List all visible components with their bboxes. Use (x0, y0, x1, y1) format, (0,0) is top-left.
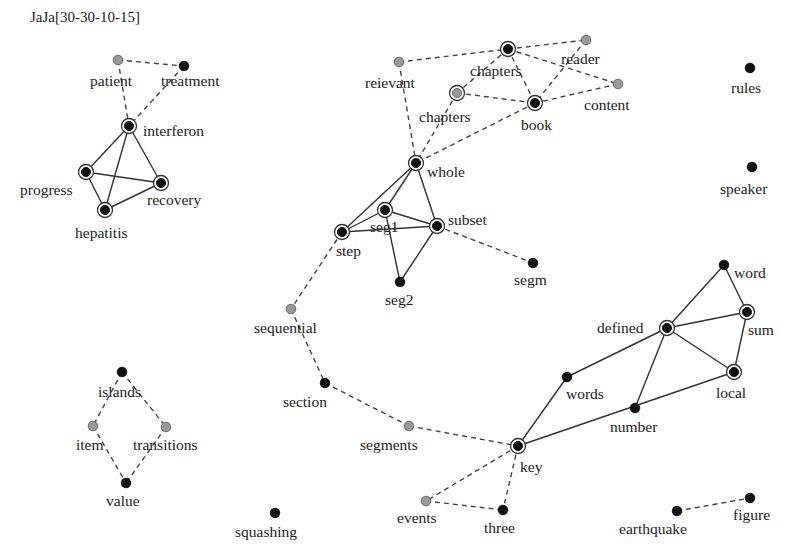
node-dot-icon (498, 505, 508, 515)
node-dot-icon (286, 304, 296, 314)
node-label-section: section (283, 393, 327, 410)
node-label-hepatitis: hepatitis (75, 224, 128, 241)
node-seg2 (395, 277, 405, 287)
edge-progress-recovery (86, 172, 161, 183)
node-label-events: events (397, 509, 437, 526)
node-content (613, 79, 623, 89)
node-book (528, 96, 543, 111)
node-dot-icon (432, 221, 441, 230)
node-whole (409, 156, 424, 171)
node-dot-icon (395, 277, 405, 287)
node-label-reader: reader (561, 50, 601, 67)
node-label-number: number (610, 418, 658, 435)
node-reader (581, 35, 591, 45)
node-label-item: item (76, 436, 104, 453)
node-dot-icon (719, 260, 729, 270)
node-chapters_top (501, 42, 516, 57)
node-patient (113, 55, 123, 65)
node-dot-icon (156, 178, 165, 187)
node-label-reievant: reievant (365, 74, 416, 91)
edge-section-segments (325, 383, 409, 426)
node-key (511, 439, 526, 454)
node-dot-icon (421, 496, 431, 506)
node-speaker (747, 162, 757, 172)
node-three (498, 505, 508, 515)
node-recovery (154, 176, 169, 191)
node-sum (740, 305, 755, 320)
node-label-defined: defined (597, 319, 644, 336)
node-label-speaker: speaker (720, 180, 768, 197)
edge-subset-seg2 (400, 226, 437, 282)
node-dot-icon (337, 227, 346, 236)
node-dot-icon (320, 378, 330, 388)
node-dot-icon (630, 403, 640, 413)
node-dot-icon (530, 98, 539, 107)
node-dot-icon (100, 205, 109, 214)
node-label-progress: progress (20, 181, 73, 198)
node-dot-icon (742, 307, 751, 316)
node-transitions (161, 422, 171, 432)
node-dot-icon (747, 162, 757, 172)
node-dot-icon (729, 367, 738, 376)
node-hepatitis (98, 203, 113, 218)
node-label-islands: islands (98, 383, 141, 400)
node-label-treatment: treatment (161, 72, 220, 89)
node-dot-icon (745, 493, 755, 503)
node-rules (745, 63, 755, 73)
node-item (88, 421, 98, 431)
edge-key-three (503, 446, 518, 510)
node-dot-icon (380, 205, 389, 214)
node-value (121, 478, 131, 488)
word-graph-canvas: patienttreatmentinterferonprogressrecove… (0, 0, 797, 557)
edge-step-sequential (291, 232, 342, 309)
node-dot-icon (528, 258, 538, 268)
node-label-interferon: interferon (143, 122, 204, 139)
node-dot-icon (270, 508, 280, 518)
node-dot-icon (81, 167, 90, 176)
node-label-squashing: squashing (235, 523, 297, 540)
edge-patient-interferon (118, 60, 129, 126)
node-label-key: key (520, 458, 543, 475)
node-earthquake (672, 506, 682, 516)
node-label-seg1: seg1 (370, 218, 398, 235)
edge-patient-treatment (118, 60, 184, 66)
node-reievant (394, 57, 404, 67)
edge-subset-segm (437, 226, 533, 263)
node-dot-icon (581, 35, 591, 45)
node-dot-icon (745, 63, 755, 73)
node-label-segm: segm (514, 271, 547, 288)
node-label-figure: figure (733, 506, 770, 523)
node-label-content: content (584, 96, 630, 113)
node-progress (79, 165, 94, 180)
node-figure (745, 493, 755, 503)
edge-whole-seg1 (385, 163, 416, 210)
node-events (421, 496, 431, 506)
node-dot-icon (404, 421, 414, 431)
node-step (335, 225, 350, 240)
node-label-whole: whole (427, 163, 465, 180)
node-label-word: word (734, 264, 766, 281)
node-label-rules: rules (731, 79, 761, 96)
node-dot-icon (452, 88, 461, 97)
node-dot-icon (513, 441, 522, 450)
node-label-sum: sum (748, 321, 774, 338)
node-defined (660, 321, 675, 336)
node-label-transitions: transitions (133, 436, 198, 453)
node-squashing (270, 508, 280, 518)
node-label-recovery: recovery (147, 191, 201, 208)
node-section (320, 378, 330, 388)
node-interferon (122, 119, 137, 134)
node-label-value: value (106, 492, 140, 509)
node-label-chapters_mid: chapters (419, 108, 471, 125)
node-seg1 (378, 203, 393, 218)
edge-segments-key (409, 426, 518, 446)
node-label-subset: subset (448, 211, 487, 228)
node-label-seg2: seg2 (385, 291, 413, 308)
node-dot-icon (113, 55, 123, 65)
node-label-local: local (716, 384, 746, 401)
node-dot-icon (411, 158, 420, 167)
node-label-segments: segments (360, 436, 418, 453)
edge-chapters_top-reader (508, 40, 586, 49)
node-dot-icon (121, 478, 131, 488)
node-dot-icon (161, 422, 171, 432)
